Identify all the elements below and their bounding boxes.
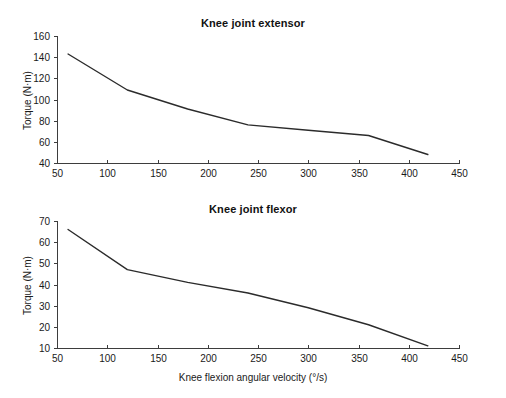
x-tick-label-flexor-2: 150: [150, 353, 167, 364]
y-tick-label-extensor-0: 40: [39, 158, 51, 169]
x-tick-label-extensor-4: 250: [250, 168, 267, 179]
chart-title-flexor: Knee joint flexor: [0, 203, 506, 215]
chart-panel-flexor: Knee joint flexor Torque (N·m) 102030405…: [0, 195, 506, 398]
y-tick-label-flexor-2: 30: [39, 301, 51, 312]
x-tick-label-extensor-5: 300: [300, 168, 317, 179]
chart-title-extensor: Knee joint extensor: [0, 17, 506, 29]
y-tick-label-extensor-3: 100: [33, 95, 50, 106]
y-tick-label-extensor-5: 140: [33, 52, 50, 63]
y-tick-label-flexor-4: 50: [39, 258, 51, 269]
chart-panel-extensor: Knee joint extensor Torque (N·m) 4060801…: [0, 0, 506, 195]
x-tick-label-flexor-5: 300: [300, 353, 317, 364]
x-tick-label-extensor-1: 100: [99, 168, 116, 179]
y-axis-label-extensor: Torque (N·m): [22, 71, 33, 130]
y-tick-label-flexor-3: 40: [39, 280, 51, 291]
y-tick-label-extensor-1: 60: [39, 137, 51, 148]
plot-area-flexor: 1020304050607050100150200250300350400450: [0, 195, 506, 398]
x-tick-label-flexor-8: 450: [451, 353, 468, 364]
x-axis-label-shared: Knee flexion angular velocity (°/s): [0, 372, 506, 383]
x-tick-label-extensor-8: 450: [451, 168, 468, 179]
figure-two-panel-torque-velocity: Knee joint extensor Torque (N·m) 4060801…: [0, 0, 506, 398]
x-tick-label-extensor-0: 50: [52, 168, 64, 179]
y-tick-label-extensor-4: 120: [33, 73, 50, 84]
x-tick-label-extensor-3: 200: [200, 168, 217, 179]
y-axis-label-flexor: Torque (N·m): [22, 256, 33, 315]
x-tick-label-flexor-0: 50: [52, 353, 64, 364]
x-tick-label-flexor-1: 100: [99, 353, 116, 364]
plot-area-extensor: 4060801001201401605010015020025030035040…: [0, 0, 506, 195]
y-tick-label-flexor-0: 10: [39, 343, 51, 354]
y-tick-label-extensor-6: 160: [33, 31, 50, 42]
x-tick-label-extensor-2: 150: [150, 168, 167, 179]
x-tick-label-flexor-7: 400: [401, 353, 418, 364]
series-line-flexor-0: [68, 229, 428, 345]
x-tick-label-flexor-3: 200: [200, 353, 217, 364]
y-tick-label-flexor-1: 20: [39, 322, 51, 333]
y-tick-label-extensor-2: 80: [39, 116, 51, 127]
series-line-extensor-0: [68, 54, 428, 155]
y-tick-label-flexor-5: 60: [39, 237, 51, 248]
x-tick-label-extensor-6: 350: [351, 168, 368, 179]
x-tick-label-flexor-6: 350: [351, 353, 368, 364]
y-tick-label-flexor-6: 70: [39, 216, 51, 227]
x-tick-label-flexor-4: 250: [250, 353, 267, 364]
x-tick-label-extensor-7: 400: [401, 168, 418, 179]
